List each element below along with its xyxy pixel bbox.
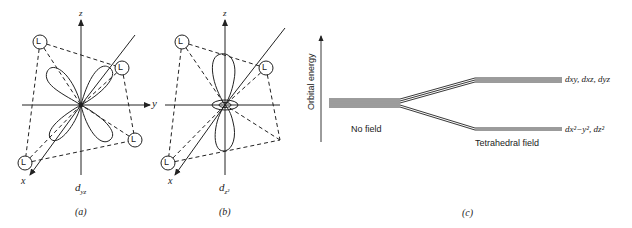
- ligand-label: L: [21, 157, 26, 167]
- caption-b: (b): [219, 206, 231, 217]
- orbital-label-dyz: dyz: [75, 181, 86, 196]
- upper-t2-levels: [400, 78, 562, 103]
- lower-e-levels: [400, 105, 562, 130]
- ligand-label: L: [178, 36, 183, 46]
- z-axis-label: z: [79, 8, 83, 18]
- x-axis: [30, 105, 81, 175]
- ligand-label: L: [36, 36, 41, 46]
- caption-c: (c): [462, 207, 473, 218]
- orbital-label-dz2: dz²: [219, 181, 229, 196]
- caption-a: (a): [75, 206, 87, 217]
- tetrahedral-field-label: Tetrahedral field: [475, 138, 539, 148]
- ligand-label: L: [118, 62, 123, 72]
- x-axis-label: x: [21, 175, 25, 186]
- orbital-energy-axis-label: Orbital energy: [306, 53, 316, 110]
- z-axis-label: z: [223, 8, 227, 18]
- upper-set-label: dxy, dxz, dyz: [565, 74, 610, 84]
- x-axis: [175, 105, 225, 175]
- x-axis-label: x: [168, 175, 172, 186]
- diagram-canvas: [0, 0, 632, 228]
- lower-set-label: dx²−y², dz²: [565, 124, 604, 134]
- ligand-label: L: [164, 157, 169, 167]
- ligand-label: L: [262, 62, 267, 72]
- no-field-label: No field: [351, 124, 382, 134]
- y-axis-label: y: [152, 97, 157, 109]
- diagonal-axis: [225, 28, 285, 105]
- ligand-label: L: [131, 134, 136, 144]
- no-field-levels: [329, 99, 400, 107]
